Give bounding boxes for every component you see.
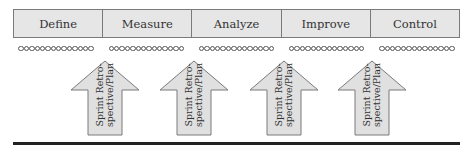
phase-control: Control bbox=[371, 10, 459, 37]
sprint-dot bbox=[173, 46, 178, 51]
sprint-dot bbox=[379, 46, 384, 51]
sprint-dot bbox=[422, 46, 427, 51]
sprint-dots-analyze bbox=[193, 46, 279, 54]
timeline-baseline bbox=[13, 142, 460, 145]
arrow-label: Sprint Retro-spective/Plan bbox=[274, 63, 294, 127]
retrospective-arrow-3: Sprint Retro-spective/Plan bbox=[249, 60, 319, 136]
sprint-dot bbox=[269, 46, 274, 51]
sprint-dot bbox=[395, 46, 400, 51]
phase-improve: Improve bbox=[282, 10, 371, 37]
sprint-dot bbox=[406, 46, 411, 51]
retrospective-arrow-2: Sprint Retro-spective/Plan bbox=[159, 60, 229, 136]
sprint-dot bbox=[305, 46, 310, 51]
phase-measure: Measure bbox=[103, 10, 192, 37]
sprint-dot bbox=[204, 46, 209, 51]
sprint-dot bbox=[247, 46, 252, 51]
phase-define: Define bbox=[14, 10, 103, 37]
sprint-dot bbox=[179, 46, 184, 51]
sprint-dots-row bbox=[13, 46, 460, 54]
sprint-dot bbox=[321, 46, 326, 51]
sprint-dot bbox=[220, 46, 225, 51]
sprint-dots-measure bbox=[103, 46, 189, 54]
sprint-dot bbox=[359, 46, 364, 51]
retrospective-arrow-4: Sprint Retro-spective/Plan bbox=[337, 60, 407, 136]
arrow-label: Sprint Retro-spective/Plan bbox=[95, 63, 115, 127]
sprint-dot bbox=[119, 46, 124, 51]
sprint-dot bbox=[449, 46, 454, 51]
sprint-dot bbox=[29, 46, 34, 51]
sprint-dot bbox=[88, 46, 93, 51]
sprint-dot bbox=[45, 46, 50, 51]
arrow-label: Sprint Retro-spective/Plan bbox=[362, 63, 382, 127]
sprint-dot bbox=[348, 46, 353, 51]
arrow-label: Sprint Retro-spective/Plan bbox=[184, 63, 204, 127]
sprint-dot bbox=[231, 46, 236, 51]
dmaic-phase-bar: Define Measure Analyze Improve Control bbox=[13, 9, 460, 38]
phase-analyze: Analyze bbox=[192, 10, 281, 37]
retrospective-arrow-1: Sprint Retro-spective/Plan bbox=[70, 60, 140, 136]
sprint-dot bbox=[18, 46, 23, 51]
sprint-dot bbox=[294, 46, 299, 51]
sprint-dots-control bbox=[374, 46, 460, 54]
sprint-dot bbox=[146, 46, 151, 51]
sprint-dot bbox=[130, 46, 135, 51]
sprint-dot bbox=[72, 46, 77, 51]
sprint-dots-define bbox=[13, 46, 99, 54]
sprint-dots-improve bbox=[284, 46, 370, 54]
